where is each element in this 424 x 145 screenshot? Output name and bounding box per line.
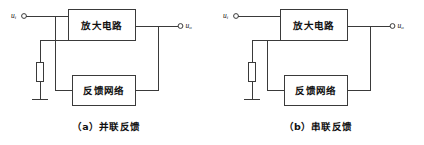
output-label-b: uo bbox=[398, 21, 405, 30]
diagram-panel-a: 放大电路 反馈网络 ui uo bbox=[0, 0, 212, 145]
caption-b: （b）串联反馈 bbox=[212, 119, 424, 133]
diagram-panel-b: 放大电路 反馈网络 ui uo （b）串联反馈 bbox=[212, 0, 424, 145]
caption-a: （a）并联反馈 bbox=[0, 119, 212, 133]
output-terminal-a bbox=[178, 24, 183, 29]
output-terminal-b bbox=[390, 24, 395, 29]
circuit-svg-b: 放大电路 反馈网络 ui uo bbox=[212, 0, 424, 118]
amplifier-block-label-a: 放大电路 bbox=[80, 20, 123, 31]
figure-root: 放大电路 反馈网络 ui uo bbox=[0, 0, 424, 145]
feedback-block-label-a: 反馈网络 bbox=[83, 85, 125, 96]
resistor-b bbox=[249, 63, 256, 82]
feedback-input-branch-b bbox=[267, 40, 285, 90]
resistor-a bbox=[37, 63, 44, 82]
circuit-svg-a: 放大电路 反馈网络 ui uo bbox=[0, 0, 212, 118]
output-label-a: uo bbox=[186, 21, 193, 30]
feedback-block-label-b: 反馈网络 bbox=[295, 85, 337, 96]
output-node-branch-a bbox=[136, 26, 159, 90]
amplifier-block-label-b: 放大电路 bbox=[292, 20, 335, 31]
output-node-branch-b bbox=[348, 26, 371, 90]
input-label-b: ui bbox=[223, 11, 229, 20]
input-label-a: ui bbox=[11, 11, 17, 20]
input-terminal-a bbox=[22, 14, 27, 19]
input-terminal-b bbox=[234, 14, 239, 19]
